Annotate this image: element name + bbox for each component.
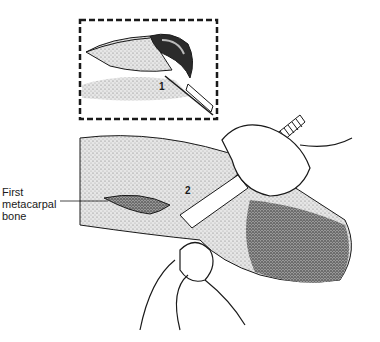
label-line-2: metacarpal bbox=[2, 198, 56, 210]
inset-panel bbox=[80, 20, 217, 119]
step-1-marker: 1 bbox=[159, 81, 165, 92]
label-line-3: bone bbox=[2, 210, 56, 222]
first-metacarpal-label: First metacarpal bone bbox=[2, 186, 56, 222]
illustration bbox=[0, 0, 380, 342]
step-2-marker: 2 bbox=[185, 185, 191, 196]
main-hand bbox=[60, 115, 352, 330]
label-line-1: First bbox=[2, 186, 56, 198]
